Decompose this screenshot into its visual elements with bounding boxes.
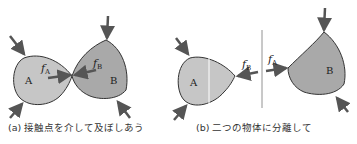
external-force-2: [10, 104, 22, 118]
force-b-label-separated: fB: [241, 58, 251, 72]
force-arrow-fa-separated: [266, 68, 286, 71]
body-b-label-separated: B: [326, 65, 333, 76]
body-a-shape-separated: [178, 57, 235, 105]
external-force-7: [324, 8, 325, 30]
force-a-label-separated: fA: [267, 53, 278, 67]
external-force-5: [176, 38, 188, 54]
external-force-3: [107, 16, 108, 38]
body-b-label: B: [110, 75, 117, 86]
panel-a: A B fA fB: [10, 16, 130, 118]
force-arrow-fb-separated: [238, 72, 258, 76]
caption-a: (a) 接触点を介して及ぼしあう: [8, 120, 144, 134]
body-a-label: A: [24, 75, 33, 86]
panel-b: A B fB fA: [174, 8, 348, 120]
external-force-4: [118, 102, 130, 118]
external-force-1: [10, 36, 24, 54]
body-a-label-separated: A: [189, 77, 198, 88]
external-force-8: [337, 98, 348, 112]
external-force-6: [174, 106, 186, 120]
caption-b: (b) 二つの物体に分離して: [196, 120, 312, 134]
body-b-shape-separated: [288, 32, 345, 94]
